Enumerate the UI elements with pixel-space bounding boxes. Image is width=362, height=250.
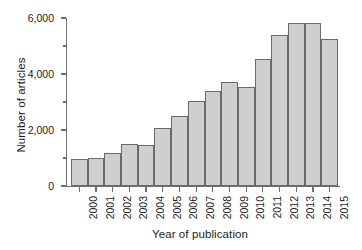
x-tick [279,187,280,192]
x-tick [162,187,163,192]
y-tick-major: 0 [61,185,66,186]
bar [255,59,272,186]
x-tick-label: 2003 [137,196,149,219]
bar [288,23,305,186]
bar [88,158,105,186]
x-axis-title: Year of publication [60,228,340,240]
x-tick-label: 2008 [221,196,233,219]
x-tick [229,187,230,192]
x-tick-label: 2009 [238,196,250,219]
x-tick [296,187,297,192]
bar [305,23,322,186]
x-tick [79,187,80,192]
x-tick-label: 2002 [121,196,133,219]
x-tick-label: 2007 [204,196,216,219]
x-tick [95,187,96,192]
x-tick-label: 2005 [171,196,183,219]
x-axis-line [66,186,340,187]
x-tick-label: 2012 [288,196,300,219]
y-tick-minor [63,157,67,158]
x-tick-label: 2001 [104,196,116,219]
x-tick [129,187,130,192]
x-tick [112,187,113,192]
y-tick-label: 4,000 [28,68,54,80]
y-tick-minor [63,45,67,46]
x-tick [329,187,330,192]
y-tick-label: 0 [48,180,54,192]
x-tick-label: 2000 [87,196,99,219]
bar [71,159,88,186]
x-tick [246,187,247,192]
y-axis-line [66,18,67,186]
x-tick-label: 2004 [154,196,166,219]
bar [188,101,205,186]
bar [121,144,138,186]
y-tick-label: 2,000 [28,124,54,136]
x-tick [262,187,263,192]
bar [321,39,338,186]
bar [138,145,155,186]
y-tick-major: 2,000 [61,129,66,130]
plot-area: 02,0004,0006,000 20002001200220032004200… [66,14,342,190]
bar [104,153,121,186]
y-tick-major: 4,000 [61,73,66,74]
x-tick-label: 2015 [338,196,350,219]
y-tick-minor [63,101,67,102]
bar [221,82,238,186]
bar [171,116,188,186]
x-tick-label: 2014 [321,196,333,219]
bar [271,35,288,186]
x-tick [179,187,180,192]
bar [205,91,222,186]
x-tick-label: 2006 [187,196,199,219]
x-tick-label: 2013 [304,196,316,219]
y-axis-title: Number of articles [10,12,32,198]
bar-chart-figure: Number of articles 02,0004,0006,000 2000… [0,0,362,250]
x-tick [145,187,146,192]
x-tick [196,187,197,192]
x-tick [212,187,213,192]
bar [238,87,255,186]
bar [154,128,171,186]
x-tick-label: 2010 [254,196,266,219]
y-tick-major: 6,000 [61,17,66,18]
x-tick-label: 2011 [271,196,283,219]
x-tick [312,187,313,192]
y-tick-label: 6,000 [28,12,54,24]
